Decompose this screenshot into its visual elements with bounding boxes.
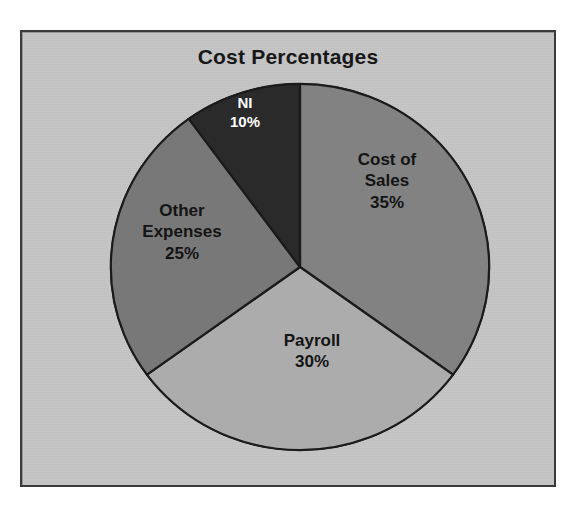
slice-label-other-expenses: Other Expenses 25% bbox=[107, 200, 257, 264]
slice-label-line: Sales bbox=[322, 170, 452, 191]
slice-label-payroll: Payroll 30% bbox=[237, 330, 387, 373]
slice-label-line: Payroll bbox=[237, 330, 387, 351]
slice-label-line: Expenses bbox=[107, 221, 257, 242]
pie-chart-svg bbox=[109, 82, 491, 452]
pie-chart bbox=[109, 82, 491, 452]
slice-label-line: Cost of bbox=[322, 149, 452, 170]
chart-title: Cost Percentages bbox=[22, 45, 554, 69]
slice-value: 35% bbox=[322, 192, 452, 213]
slice-value: 30% bbox=[237, 351, 387, 372]
slice-label-cost-of-sales: Cost of Sales 35% bbox=[322, 149, 452, 213]
slice-label-line: NI bbox=[200, 94, 290, 113]
slice-value: 25% bbox=[107, 243, 257, 264]
slice-label-ni: NI 10% bbox=[200, 94, 290, 132]
slice-value: 10% bbox=[200, 113, 290, 132]
slice-label-line: Other bbox=[107, 200, 257, 221]
chart-panel: Cost Percentages Cost of Sales 35% Payro… bbox=[20, 30, 556, 487]
